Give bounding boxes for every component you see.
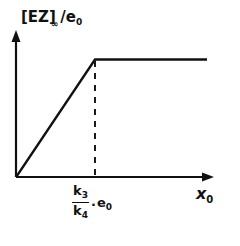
y-axis-label-infinity-subscript: ∞	[51, 19, 59, 29]
y-axis-arrowhead	[12, 30, 21, 42]
y-axis-label: [EZ]∞/e0	[21, 10, 82, 29]
fraction-numerator-subscript: 3	[82, 190, 88, 200]
enzyme-factor-subscript: 0	[106, 202, 112, 212]
fraction-numerator: k3	[72, 184, 89, 201]
y-axis-label-denominator: e	[66, 8, 76, 26]
x-axis-arrowhead	[202, 173, 214, 182]
enzyme-factor: e0	[97, 196, 112, 212]
x-axis-label-subscript: 0	[206, 194, 213, 205]
saturating-response-curve	[17, 60, 208, 177]
x-axis	[16, 173, 214, 182]
y-axis-label-denominator-subscript: 0	[76, 17, 82, 27]
plot-canvas	[0, 0, 240, 246]
figure-container: [EZ]∞/e0 x0 k3 k4 · e0	[0, 0, 240, 246]
x-axis-tick-label: k3 k4 · e0	[72, 184, 112, 221]
x-axis-label-base: x	[196, 184, 206, 203]
x-axis-label: x0	[196, 186, 213, 205]
k-ratio-fraction: k3 k4	[72, 184, 89, 221]
fraction-denominator-base: k	[73, 203, 82, 218]
fraction-denominator-subscript: 4	[82, 210, 88, 220]
fraction-denominator: k4	[72, 204, 89, 221]
fraction-numerator-base: k	[73, 183, 82, 198]
multiplication-dot-operator: ·	[91, 198, 96, 211]
enzyme-factor-base: e	[97, 195, 106, 210]
y-axis	[12, 30, 21, 177]
